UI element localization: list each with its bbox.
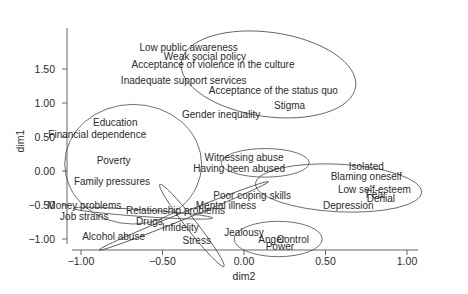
x-axis-label: dim2 [233,270,256,282]
y-axis-label: dim1 [14,129,26,152]
point-label: Having been abused [193,163,285,174]
point-label: Stigma [274,100,306,111]
point-label: Poverty [97,155,131,166]
point-label: Financial dependence [48,129,146,140]
point-label: Education [93,117,137,128]
point-label: Family pressures [74,176,150,187]
point-label: Alcohol abuse [82,231,145,242]
x-tick-label: −1.00 [68,255,95,267]
point-label: Gender inequality [182,109,260,120]
point-label: Power [266,241,295,252]
x-tick-label: −0.50 [149,255,176,267]
point-label: Job strains [60,211,108,222]
y-tick-label: 1.50 [35,63,56,75]
point-label: Acceptance of the status quo [209,85,338,96]
point-label: Blaming oneself [331,171,402,182]
y-tick-label: 1.00 [35,97,56,109]
point-label: Relationship problems [126,205,225,216]
point-label: Stress [183,235,211,246]
point-label: Drugs [136,216,163,227]
y-tick-label: −1.00 [28,233,55,245]
point-label: Acceptance of violence in the culture [132,59,295,70]
point-label: Money problems [47,200,121,211]
x-tick-label: 0.00 [234,255,255,267]
x-ticks: −1.00−0.500.000.501.00 [68,250,418,267]
point-label: Infidelity [162,222,199,233]
point-label: Depression [323,200,374,211]
point-label: Witnessing abuse [205,152,284,163]
x-tick-label: 1.00 [397,255,418,267]
correspondence-plot: −1.00−0.500.000.501.001.50 −1.00−0.500.0… [0,0,468,294]
y-tick-label: 0.00 [35,165,56,177]
x-tick-label: 0.50 [315,255,336,267]
point-labels: Low public awarenessWeak social policyAc… [47,42,411,252]
